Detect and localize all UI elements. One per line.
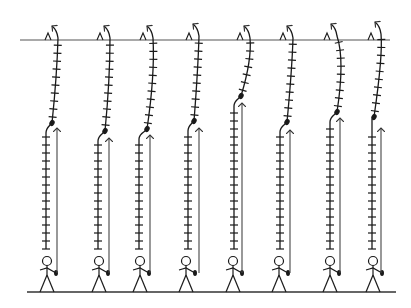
person-head-icon [182, 257, 191, 266]
rope-rung [148, 91, 156, 92]
lower-rope [139, 131, 145, 249]
rope-rung [287, 76, 295, 77]
rope-rung [373, 95, 381, 96]
rope-rung [147, 99, 155, 100]
figure-6 [272, 26, 297, 292]
rope-rung [371, 111, 379, 112]
rope-rung [49, 117, 57, 118]
rope-rung [336, 90, 344, 91]
lower-rope [188, 123, 192, 249]
rope-rung [286, 92, 294, 93]
rope-rung [102, 117, 110, 118]
person-head-icon [95, 257, 104, 266]
person-leg-right [330, 275, 337, 292]
lower-rope [280, 124, 285, 249]
person-leg-left [40, 275, 47, 292]
upper-rope [147, 26, 153, 129]
person-head-icon [275, 257, 284, 266]
rope-rung [146, 107, 154, 108]
rope-rung [243, 74, 251, 76]
person-leg-left [272, 275, 279, 292]
lower-rope [98, 133, 103, 249]
rope-rung [192, 91, 200, 92]
person-arms [226, 268, 242, 273]
rope-rung [287, 68, 295, 69]
rope-rung [192, 99, 200, 100]
rope-rung [49, 109, 57, 110]
rope-rung [244, 66, 252, 67]
person-leg-left [323, 275, 330, 292]
person-head-icon [43, 257, 52, 266]
figure-7 [323, 24, 345, 292]
figure-4 [179, 24, 203, 292]
rope-rung [104, 101, 112, 102]
rope-rung [51, 93, 59, 94]
figure-2 [92, 26, 114, 292]
person-arms [272, 268, 288, 273]
person-leg-right [373, 275, 380, 292]
rope-rung [148, 83, 156, 84]
person-leg-right [140, 275, 147, 292]
hand-icon [193, 270, 197, 276]
person-head-icon [136, 257, 145, 266]
rope-rung [245, 59, 253, 60]
rope-rung [286, 84, 294, 85]
diagram-canvas [0, 0, 411, 308]
rope-rung [284, 116, 292, 117]
rope-rung [193, 83, 201, 84]
rope-rung [336, 50, 344, 51]
person-leg-right [186, 275, 193, 292]
person-leg-right [233, 275, 240, 292]
rope-rung [376, 63, 384, 64]
caret-marker-icon [140, 33, 146, 40]
person-arms [179, 268, 195, 273]
rope-rung [336, 82, 344, 83]
rope-rung [376, 71, 384, 72]
caret-marker-icon [368, 33, 374, 40]
rope-rung [51, 85, 59, 86]
person-leg-left [226, 275, 233, 292]
rope-rung [335, 98, 343, 99]
hand-icon [286, 270, 290, 276]
person-leg-left [366, 275, 373, 292]
person-leg-left [179, 275, 186, 292]
person-head-icon [369, 257, 378, 266]
figures-group [40, 22, 385, 292]
caret-marker-icon [324, 33, 330, 40]
lower-rope [330, 114, 335, 249]
person-arms [323, 268, 339, 273]
caret-marker-icon [280, 33, 286, 40]
rope-climbing-diagram [0, 0, 411, 308]
rope-rung [191, 107, 199, 108]
person-leg-right [99, 275, 106, 292]
person-head-icon [229, 257, 238, 266]
rope-rung [375, 79, 383, 80]
rope-rung [334, 106, 342, 107]
caret-marker-icon [237, 33, 243, 40]
rope-rung [285, 100, 293, 101]
caret-marker-icon [97, 33, 103, 40]
lower-rope [46, 125, 50, 249]
person-leg-left [92, 275, 99, 292]
person-leg-right [279, 275, 286, 292]
figure-5 [226, 26, 254, 292]
upper-rope [241, 26, 250, 96]
caret-marker-icon [186, 33, 192, 40]
person-head-icon [326, 257, 335, 266]
rope-rung [52, 77, 60, 78]
person-arms [366, 268, 382, 273]
person-arms [40, 268, 56, 273]
rope-rung [372, 103, 380, 104]
rope-rung [374, 87, 382, 88]
rope-rung [190, 115, 198, 116]
rope-rung [144, 123, 152, 124]
person-arms [92, 268, 108, 273]
rope-rung [102, 125, 110, 126]
person-leg-right [47, 275, 54, 292]
figure-3 [133, 26, 157, 292]
rope-rung [284, 108, 292, 109]
person-arms [133, 268, 149, 273]
rope-rung [104, 93, 112, 94]
person-leg-left [133, 275, 140, 292]
upper-rope [104, 26, 110, 131]
